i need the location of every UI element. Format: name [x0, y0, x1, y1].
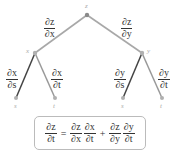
- edge-label-dz-dy: ∂z∂y: [121, 17, 132, 39]
- node-dot-s-right: [121, 96, 125, 100]
- node-dot-x: [33, 51, 37, 55]
- node-dot-z: [85, 13, 89, 17]
- plus-sign: +: [98, 128, 108, 139]
- edge-label-dx-dt: ∂x∂t: [51, 68, 63, 90]
- node-dot-y: [140, 51, 144, 55]
- node-label-z: z: [85, 2, 88, 10]
- chain-rule-formula-box: ∂z∂t = ∂z∂x ∂x∂t + ∂z∂y ∂y∂t: [34, 116, 146, 150]
- node-dot-t-left: [53, 96, 57, 100]
- equals-sign: =: [59, 128, 69, 139]
- formula-lhs: ∂z∂t: [45, 122, 56, 144]
- node-label-y: y: [147, 47, 150, 55]
- edge-x-s: [16, 53, 35, 98]
- edge-z-x: [35, 15, 87, 53]
- formula-term1b: ∂x∂t: [84, 122, 96, 144]
- node-dot-s-left: [14, 96, 18, 100]
- edge-label-dy-dt: ∂y∂t: [158, 68, 170, 90]
- node-dot-t-right: [160, 96, 164, 100]
- node-label-x: x: [26, 47, 29, 55]
- edge-label-dy-ds: ∂y∂s: [114, 68, 126, 90]
- formula-term1a: ∂z∂x: [70, 122, 81, 144]
- formula-term2b: ∂y∂t: [123, 122, 135, 144]
- formula-term2a: ∂z∂y: [109, 122, 120, 144]
- node-label-s-left: s: [14, 102, 17, 110]
- node-label-s-right: s: [121, 102, 124, 110]
- node-label-t-left: t: [53, 102, 55, 110]
- edge-label-dx-ds: ∂x∂s: [6, 68, 18, 90]
- edge-label-dz-dx: ∂z∂x: [44, 17, 55, 39]
- edge-z-y: [87, 15, 142, 53]
- node-label-t-right: t: [160, 102, 162, 110]
